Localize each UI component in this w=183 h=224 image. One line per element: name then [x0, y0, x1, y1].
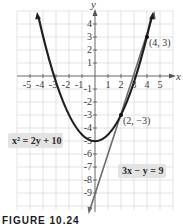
- svg-text:-4: -4: [36, 79, 44, 90]
- svg-text:-8: -8: [84, 174, 92, 185]
- line-equation-label: 3x − y = 9: [118, 164, 166, 178]
- svg-text:3x − y = 9: 3x − y = 9: [122, 165, 163, 176]
- svg-text:1: 1: [106, 79, 111, 90]
- svg-text:4: 4: [145, 79, 150, 90]
- x-tick-labels: -5 -4 -3 -2 -1 1 2 3 4 5: [23, 79, 163, 90]
- svg-text:2: 2: [87, 44, 92, 55]
- svg-text:3: 3: [87, 31, 92, 42]
- point-label-4-3: (4, 3): [149, 37, 171, 49]
- svg-text:-6: -6: [84, 148, 92, 159]
- svg-text:-4: -4: [84, 122, 92, 133]
- svg-text:-2: -2: [84, 96, 92, 107]
- x-axis-label: x: [175, 70, 181, 82]
- svg-text:2: 2: [119, 79, 124, 90]
- svg-text:x² = 2y + 10: x² = 2y + 10: [12, 135, 61, 146]
- y-axis-label: y: [90, 0, 96, 10]
- svg-text:-1: -1: [84, 83, 92, 94]
- graph: x y -5 -4 -3 -2 -1 1 2 3 4 5 4 3 2 1 -1 …: [0, 0, 183, 224]
- svg-text:-3: -3: [84, 109, 92, 120]
- x-axis: [17, 74, 176, 79]
- svg-text:-9: -9: [84, 187, 92, 198]
- svg-text:-1: -1: [75, 79, 83, 90]
- parabola-equation-label: x² = 2y + 10: [8, 133, 63, 148]
- svg-text:-2: -2: [62, 79, 70, 90]
- svg-text:4: 4: [87, 18, 92, 29]
- point-label-2-neg3: (2, −3): [123, 115, 150, 127]
- svg-text:5: 5: [158, 79, 163, 90]
- y-tick-labels: 4 3 2 1 -1 -2 -3 -4 -5 -6 -7 -8 -9: [84, 18, 92, 198]
- figure-caption: FIGURE 10.24: [2, 215, 80, 224]
- y-axis: [93, 9, 98, 212]
- svg-text:-7: -7: [84, 161, 92, 172]
- svg-text:1: 1: [87, 57, 92, 68]
- svg-text:-5: -5: [23, 79, 31, 90]
